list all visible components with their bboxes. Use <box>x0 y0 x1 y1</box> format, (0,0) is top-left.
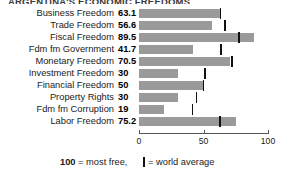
plot-area <box>139 115 268 127</box>
chart-row: Fdm fm Government41.7 <box>0 43 282 55</box>
plot-area <box>139 67 268 79</box>
axis-tick <box>204 130 205 134</box>
value-bar <box>139 57 230 66</box>
category-value: 75.2 <box>118 115 140 127</box>
world-average-marker <box>204 68 206 79</box>
world-average-marker-icon <box>143 157 145 167</box>
chart-legend: 100 = most free, = world average <box>0 155 282 169</box>
legend-most-free-text: = most free, <box>76 157 128 167</box>
value-bar <box>139 93 178 102</box>
chart-row: Financial Freedom50 <box>0 79 282 91</box>
category-label: Investment Freedom <box>0 67 114 79</box>
axis-tick-label: 0 <box>137 136 142 146</box>
value-bar <box>139 81 204 90</box>
world-average-marker <box>224 20 226 31</box>
legend-world-average: = world average <box>143 155 214 169</box>
category-value: 63.1 <box>118 7 140 19</box>
chart-row: Trade Freedom56.6 <box>0 19 282 31</box>
x-axis: 050100 <box>139 133 268 153</box>
chart-row: Fiscal Freedom89.5 <box>0 31 282 43</box>
value-bar <box>139 9 220 18</box>
value-bar <box>139 21 212 30</box>
category-value: 50 <box>118 79 140 91</box>
category-label: Fdm fm Corruption <box>0 103 114 115</box>
plot-area <box>139 55 268 67</box>
category-label: Monetary Freedom <box>0 55 114 67</box>
category-value: 41.7 <box>118 43 140 55</box>
category-value: 89.5 <box>118 31 140 43</box>
category-label: Property Rights <box>0 91 114 103</box>
world-average-marker <box>192 104 194 115</box>
value-bar <box>139 33 254 42</box>
chart-row: Labor Freedom75.2 <box>0 115 282 127</box>
axis-tick <box>268 130 269 134</box>
plot-area <box>139 103 268 115</box>
world-average-marker <box>196 92 198 103</box>
world-average-marker <box>231 56 233 67</box>
category-label: Trade Freedom <box>0 19 114 31</box>
category-value: 19 <box>118 103 140 115</box>
chart-row: Fdm fm Corruption19 <box>0 103 282 115</box>
world-average-marker <box>220 8 222 19</box>
legend-world-average-text: = world average <box>148 157 214 167</box>
category-value: 30 <box>118 67 140 79</box>
axis-tick-label: 50 <box>199 136 209 146</box>
bar-chart: Business Freedom63.1Trade Freedom56.6Fis… <box>0 7 282 127</box>
plot-area <box>139 79 268 91</box>
category-label: Business Freedom <box>0 7 114 19</box>
plot-area <box>139 91 268 103</box>
category-value: 30 <box>118 91 140 103</box>
chart-row: Investment Freedom30 <box>0 67 282 79</box>
world-average-marker <box>203 80 205 91</box>
world-average-marker <box>220 44 222 55</box>
category-value: 70.5 <box>118 55 140 67</box>
category-label: Fiscal Freedom <box>0 31 114 43</box>
category-label: Labor Freedom <box>0 115 114 127</box>
value-bar <box>139 69 178 78</box>
axis-tick-label: 100 <box>261 136 275 146</box>
chart-row: Property Rights30 <box>0 91 282 103</box>
plot-area <box>139 43 268 55</box>
chart-row: Monetary Freedom70.5 <box>0 55 282 67</box>
plot-area <box>139 19 268 31</box>
chart-row: Business Freedom63.1 <box>0 7 282 19</box>
plot-area <box>139 31 268 43</box>
value-bar <box>139 117 236 126</box>
value-bar <box>139 105 164 114</box>
axis-tick <box>139 130 140 134</box>
legend-most-free-number: 100 <box>60 157 76 167</box>
chart-title: ARGENTINA'S ECONOMIC FREEDOMS <box>8 0 190 4</box>
legend-most-free: 100 = most free, <box>60 155 127 169</box>
plot-area <box>139 7 268 19</box>
category-label: Financial Freedom <box>0 79 114 91</box>
value-bar <box>139 45 193 54</box>
category-label: Fdm fm Government <box>0 43 114 55</box>
category-value: 56.6 <box>118 19 140 31</box>
world-average-marker <box>238 32 240 43</box>
world-average-marker <box>219 116 221 127</box>
